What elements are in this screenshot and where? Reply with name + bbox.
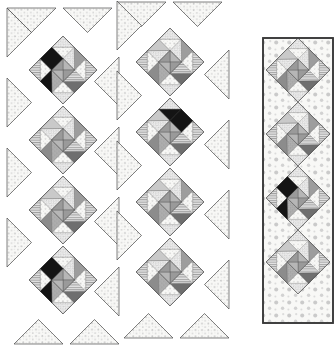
block-column-two-0 bbox=[136, 28, 204, 96]
block-column-one-1 bbox=[29, 106, 97, 174]
strip-column-two bbox=[117, 1, 229, 338]
strip-column-one bbox=[7, 8, 119, 344]
block-column-two-3 bbox=[136, 238, 204, 306]
block-column-one-3 bbox=[29, 246, 97, 314]
strip-column-three bbox=[263, 38, 333, 323]
block-column-two-2 bbox=[136, 168, 204, 236]
quilt-pattern-svg bbox=[0, 0, 336, 352]
block-column-one-0 bbox=[29, 36, 97, 104]
block-column-two-1 bbox=[136, 98, 204, 166]
quilt-diagram-canvas bbox=[0, 0, 336, 352]
block-column-one-2 bbox=[29, 176, 97, 244]
